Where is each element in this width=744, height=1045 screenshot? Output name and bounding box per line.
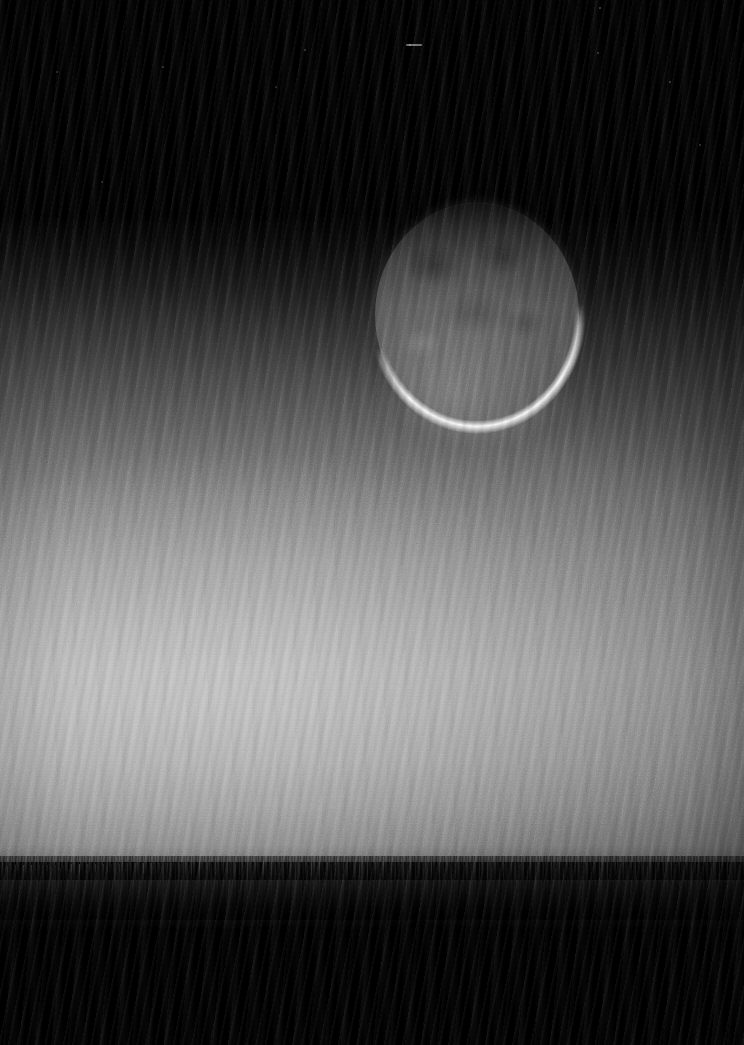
- star-point: [162, 66, 163, 67]
- star-point: [599, 7, 601, 9]
- foreground-silhouette: [0, 885, 744, 1045]
- star-point: [56, 71, 57, 72]
- photograph-canvas: [0, 0, 744, 1045]
- star-point: [699, 144, 700, 145]
- star-point: [101, 181, 102, 182]
- star-point: [275, 86, 276, 87]
- star-point: [669, 81, 671, 83]
- treeline-speckle-texture: [0, 862, 744, 880]
- crescent-limb-highlight: [368, 196, 586, 434]
- star-streak-icon: [406, 44, 422, 46]
- star-point: [597, 52, 598, 53]
- star-point: [304, 49, 305, 50]
